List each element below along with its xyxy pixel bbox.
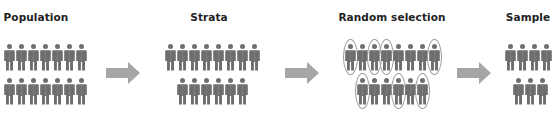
selection-ring-icon: [379, 39, 394, 75]
selection-ring-icon: [343, 39, 358, 75]
arrow-right-icon: [106, 62, 140, 84]
person-icon: [16, 44, 27, 71]
person-icon: [40, 78, 51, 105]
selection-ring-icon: [355, 73, 370, 109]
person-icon: [201, 44, 212, 71]
person-icon: [28, 78, 39, 105]
person-icon: [4, 78, 15, 105]
person-icon: [529, 44, 540, 71]
person-icon: [369, 78, 380, 105]
stage-title-strata: Strata: [190, 11, 228, 23]
person-icon: [525, 78, 536, 105]
person-icon: [237, 78, 248, 105]
person-icon: [4, 44, 15, 71]
stage-title-sample: Sample: [506, 11, 550, 23]
person-icon: [189, 78, 200, 105]
person-icon: [237, 44, 248, 71]
person-icon: [177, 78, 188, 105]
arrow-right-icon: [457, 62, 491, 84]
stage-title-population: Population: [4, 11, 69, 23]
person-icon: [40, 44, 51, 71]
person-icon: [52, 44, 63, 71]
person-icon: [76, 78, 87, 105]
selection-ring-icon: [415, 73, 430, 109]
person-icon: [213, 78, 224, 105]
person-icon: [165, 44, 176, 71]
selection-ring-icon: [427, 39, 442, 75]
arrow-right-icon: [285, 62, 319, 84]
person-icon: [249, 44, 260, 71]
stage-title-random-selection: Random selection: [338, 11, 445, 23]
person-icon: [405, 44, 416, 71]
person-icon: [28, 44, 39, 71]
person-icon: [393, 44, 404, 71]
person-icon: [64, 44, 75, 71]
person-icon: [513, 78, 524, 105]
person-icon: [64, 78, 75, 105]
person-icon: [52, 78, 63, 105]
person-icon: [537, 78, 548, 105]
person-icon: [201, 78, 212, 105]
person-icon: [16, 78, 27, 105]
person-icon: [225, 44, 236, 71]
person-icon: [517, 44, 528, 71]
person-icon: [225, 78, 236, 105]
person-icon: [76, 44, 87, 71]
person-icon: [177, 44, 188, 71]
selection-ring-icon: [391, 73, 406, 109]
person-icon: [213, 44, 224, 71]
person-icon: [505, 44, 516, 71]
person-icon: [541, 44, 552, 71]
person-icon: [189, 44, 200, 71]
